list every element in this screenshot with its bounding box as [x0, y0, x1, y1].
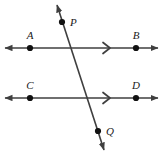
point-Q-dot — [95, 128, 101, 134]
point-D-label: D — [131, 79, 140, 91]
point-B-label: B — [133, 29, 140, 41]
point-C-dot — [27, 95, 33, 101]
point-Q-label: Q — [106, 125, 114, 137]
point-B-dot — [133, 45, 139, 51]
point-P-label: P — [69, 16, 77, 28]
point-P-dot — [59, 19, 65, 25]
diagram-canvas: A B C D P Q — [0, 0, 164, 157]
point-D-dot — [133, 95, 139, 101]
point-C-label: C — [26, 79, 34, 91]
geometry-diagram: A B C D P Q — [0, 0, 164, 157]
point-A-dot — [27, 45, 33, 51]
point-A-label: A — [26, 29, 34, 41]
